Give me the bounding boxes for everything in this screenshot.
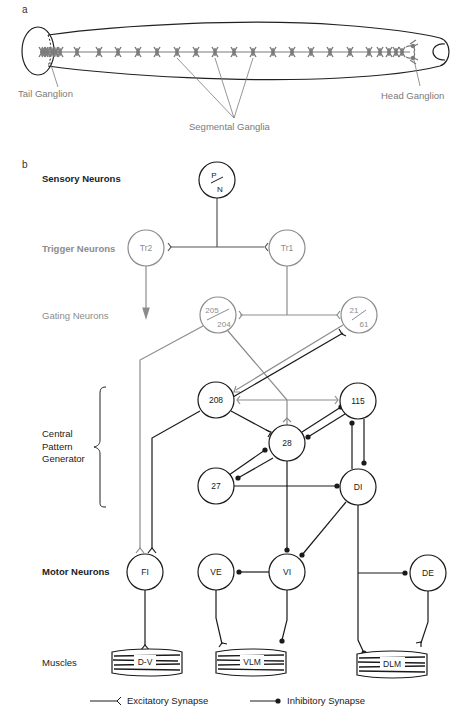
row-label-cpg-3: Generator (42, 453, 85, 464)
panel-a-label: a (22, 4, 28, 15)
row-label-trigger: Trigger Neurons (42, 243, 115, 254)
panel-b-label: b (22, 159, 28, 170)
muscle-dv: D-V (112, 649, 182, 676)
neuron-di-label: DI (354, 482, 363, 492)
neuron-204-label: 204 (217, 320, 231, 329)
panel-b: b Sensory Neurons Trigger Neurons Gating… (22, 159, 446, 706)
neuron-tr1[interactable]: Tr1 (269, 230, 305, 266)
neuron-27-label: 27 (211, 481, 221, 491)
row-label-gating: Gating Neurons (42, 310, 109, 321)
legend-inhibitory: Inhibitory Synapse (250, 695, 365, 706)
neuron-pn-top-label: P (211, 171, 216, 180)
row-label-muscles: Muscles (42, 657, 77, 668)
neuron-21-61[interactable]: 21 61 (341, 297, 377, 333)
leech-swim-circuit-figure: a (0, 0, 475, 724)
neuron-pn[interactable]: P N (199, 162, 235, 198)
neuron-vi[interactable]: VI (269, 554, 305, 590)
cpg-brace (94, 387, 106, 507)
muscle-dlm: DLM (357, 651, 427, 678)
neuron-fi-label: FI (141, 567, 149, 577)
panel-a: a (18, 4, 449, 132)
neuron-ve[interactable]: VE (198, 554, 234, 590)
neuron-tr2[interactable]: Tr2 (128, 230, 164, 266)
neuron-205-label: 205 (205, 306, 219, 315)
head-ganglion-label: Head Ganglion (381, 90, 444, 101)
legend-inhibitory-label: Inhibitory Synapse (287, 695, 365, 706)
muscle-vlm-label: VLM (243, 657, 260, 667)
neuron-tr1-label: Tr1 (281, 243, 294, 253)
row-label-cpg-2: Pattern (42, 441, 73, 452)
row-label-cpg-1: Central (42, 428, 73, 439)
legend-excitatory-label: Excitatory Synapse (127, 695, 208, 706)
neuron-ve-label: VE (210, 567, 222, 577)
neuron-205-204[interactable]: 205 204 (200, 297, 236, 333)
neuron-208-label: 208 (209, 395, 223, 405)
excitatory-synapse-icon (117, 697, 121, 705)
legend: Excitatory Synapse Inhibitory Synapse (90, 695, 365, 706)
segmental-ganglia-label: Segmental Ganglia (189, 121, 271, 132)
mouth-outline (433, 44, 445, 60)
tail-ganglion-label: Tail Ganglion (18, 88, 73, 99)
neuron-28-label: 28 (282, 438, 292, 448)
neuron-pn-bottom-label: N (217, 185, 223, 194)
neuron-de-label: DE (422, 568, 434, 578)
neuron-21-label: 21 (350, 306, 359, 315)
neuron-115[interactable]: 115 (340, 383, 376, 419)
neuron-de[interactable]: DE (410, 555, 446, 591)
neuron-28[interactable]: 28 (269, 425, 305, 461)
muscle-dv-label: D-V (138, 657, 153, 667)
neuron-vi-label: VI (283, 567, 291, 577)
grey-connections (136, 198, 343, 553)
neuron-115-label: 115 (351, 396, 365, 406)
neuron-fi[interactable]: FI (127, 554, 163, 590)
black-connections (141, 329, 428, 656)
neuron-di[interactable]: DI (340, 469, 376, 505)
row-label-motor: Motor Neurons (42, 566, 110, 577)
neuron-208[interactable]: 208 (198, 382, 234, 418)
row-label-sensory: Sensory Neurons (42, 173, 121, 184)
legend-excitatory: Excitatory Synapse (90, 695, 208, 706)
neuron-27[interactable]: 27 (198, 468, 234, 504)
inhibitory-synapse-icon (275, 698, 280, 703)
neuron-tr2-label: Tr2 (140, 243, 153, 253)
muscle-dlm-label: DLM (383, 659, 401, 669)
muscle-vlm: VLM (216, 649, 286, 676)
neuron-61-label: 61 (360, 320, 369, 329)
